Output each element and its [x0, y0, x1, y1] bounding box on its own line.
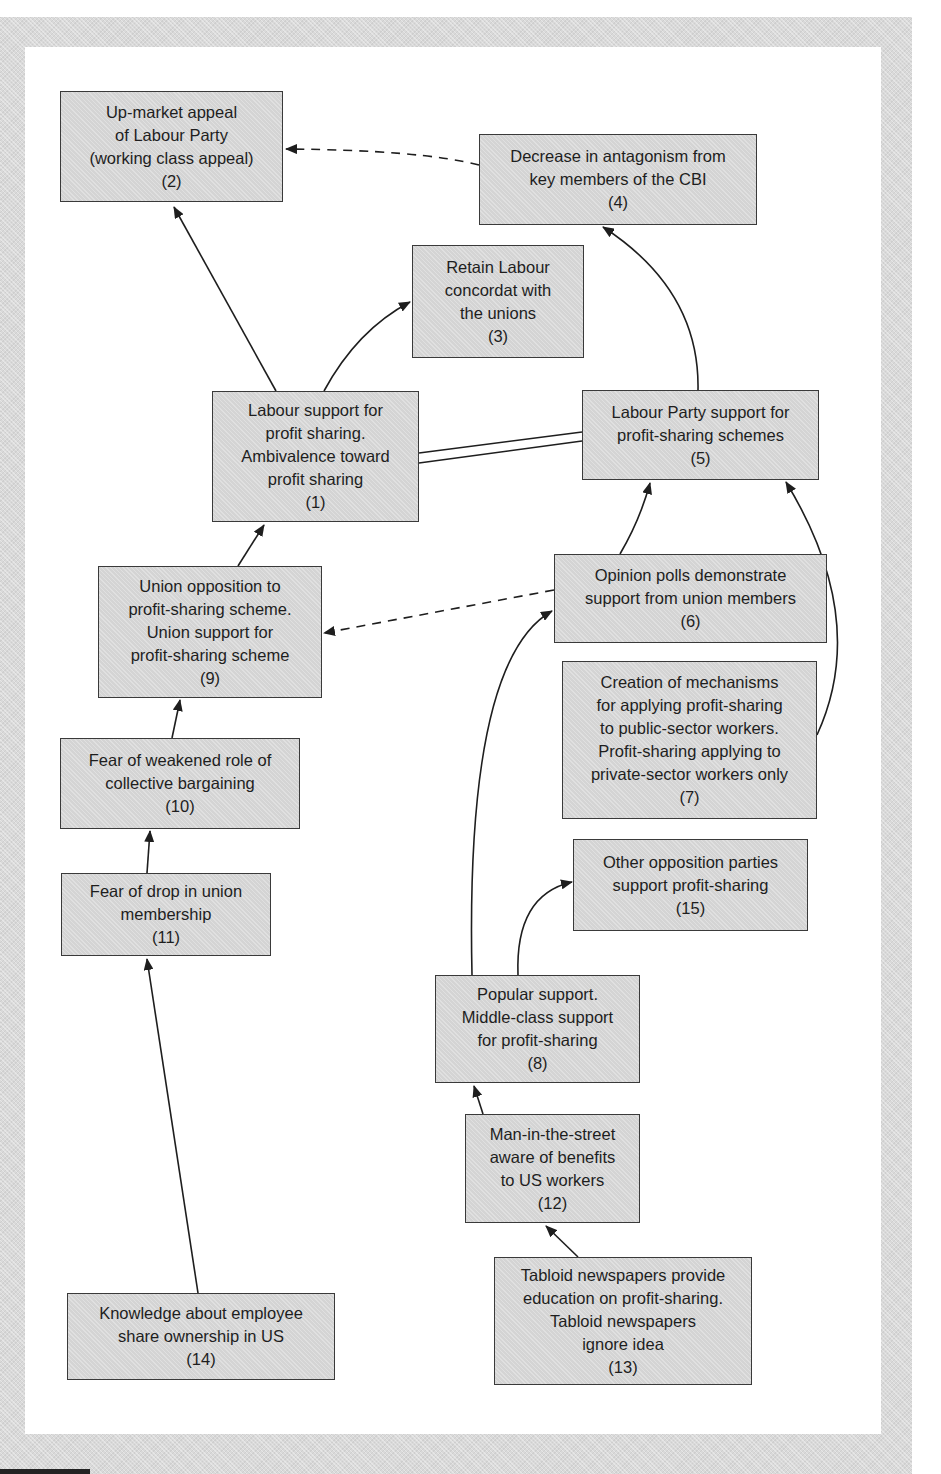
node-text: Retain Labour [446, 256, 550, 279]
node-text: (working class appeal) [89, 147, 253, 170]
node-1-labour-support: Labour support for profit sharing. Ambiv… [212, 391, 419, 522]
node-number: (9) [200, 667, 220, 690]
node-number: (13) [608, 1356, 637, 1379]
node-number: (11) [152, 926, 180, 949]
node-text: the unions [460, 302, 536, 325]
node-8-popular-support: Popular support. Middle-class support fo… [435, 975, 640, 1083]
node-5-labour-party-support: Labour Party support for profit-sharing … [582, 390, 819, 480]
node-text: share ownership in US [118, 1325, 284, 1348]
node-15-other-opposition-parties: Other opposition parties support profit-… [573, 839, 808, 931]
node-number: (6) [680, 610, 700, 633]
node-6-opinion-polls: Opinion polls demonstrate support from u… [554, 554, 827, 643]
node-text: Union support for [147, 621, 274, 644]
page-corner-bar [0, 1469, 90, 1474]
node-text: Profit-sharing applying to [598, 740, 781, 763]
node-text: profit-sharing schemes [617, 424, 784, 447]
node-9-union-opposition: Union opposition to profit-sharing schem… [98, 566, 322, 698]
node-text: Up-market appeal [106, 101, 237, 124]
node-text: to US workers [501, 1169, 605, 1192]
node-text: Decrease in antagonism from [510, 145, 726, 168]
node-text: private-sector workers only [591, 763, 788, 786]
node-text: Popular support. [477, 983, 598, 1006]
node-text: Fear of weakened role of [89, 749, 272, 772]
node-number: (7) [679, 786, 699, 809]
node-text: profit-sharing scheme [131, 644, 290, 667]
node-2-up-market-appeal: Up-market appeal of Labour Party (workin… [60, 91, 283, 202]
node-text: key members of the CBI [530, 168, 707, 191]
node-text: Knowledge about employee [99, 1302, 303, 1325]
node-text: Creation of mechanisms [601, 671, 779, 694]
node-text: collective bargaining [105, 772, 255, 795]
node-number: (12) [538, 1192, 567, 1215]
node-text: profit sharing. [266, 422, 366, 445]
node-text: support profit-sharing [613, 874, 769, 897]
node-text: support from union members [585, 587, 796, 610]
node-number: (5) [690, 447, 710, 470]
node-text: education on profit-sharing. [523, 1287, 723, 1310]
node-number: (14) [186, 1348, 215, 1371]
node-text: Ambivalence toward [241, 445, 390, 468]
node-text: Labour Party support for [612, 401, 790, 424]
node-7-creation-of-mechanisms: Creation of mechanisms for applying prof… [562, 661, 817, 819]
node-text: Middle-class support [462, 1006, 613, 1029]
node-10-fear-weakened-bargaining: Fear of weakened role of collective barg… [60, 738, 300, 829]
node-number: (2) [161, 170, 181, 193]
node-4-decrease-antagonism-cbi: Decrease in antagonism from key members … [479, 134, 757, 225]
node-11-fear-drop-membership: Fear of drop in union membership (11) [61, 873, 271, 956]
node-number: (1) [305, 491, 325, 514]
node-text: aware of benefits [490, 1146, 616, 1169]
node-text: Union opposition to [139, 575, 280, 598]
node-text: Labour support for [248, 399, 383, 422]
node-text: membership [121, 903, 212, 926]
node-number: (10) [165, 795, 194, 818]
node-text: Opinion polls demonstrate [595, 564, 787, 587]
node-number: (15) [676, 897, 705, 920]
node-13-tabloid-newspapers: Tabloid newspapers provide education on … [494, 1257, 752, 1385]
node-number: (4) [608, 191, 628, 214]
node-number: (8) [527, 1052, 547, 1075]
node-text: of Labour Party [115, 124, 228, 147]
node-number: (3) [488, 325, 508, 348]
node-3-retain-labour-concordat: Retain Labour concordat with the unions … [412, 245, 584, 358]
node-text: profit-sharing scheme. [128, 598, 291, 621]
node-text: Other opposition parties [603, 851, 778, 874]
node-text: Tabloid newspapers [550, 1310, 696, 1333]
node-text: Tabloid newspapers provide [521, 1264, 726, 1287]
node-text: for applying profit-sharing [596, 694, 782, 717]
node-text: ignore idea [582, 1333, 664, 1356]
node-text: Man-in-the-street [490, 1123, 616, 1146]
node-14-knowledge-employee-ownership: Knowledge about employee share ownership… [67, 1293, 335, 1380]
node-text: to public-sector workers. [600, 717, 779, 740]
node-text: profit sharing [268, 468, 363, 491]
node-text: for profit-sharing [477, 1029, 597, 1052]
node-text: concordat with [445, 279, 551, 302]
node-12-man-in-the-street: Man-in-the-street aware of benefits to U… [465, 1114, 640, 1223]
node-text: Fear of drop in union [90, 880, 242, 903]
